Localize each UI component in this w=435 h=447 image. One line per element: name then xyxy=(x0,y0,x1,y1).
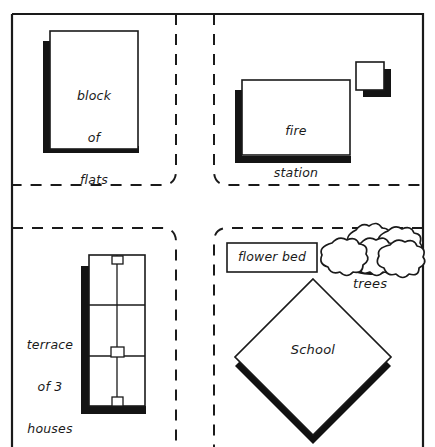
fire-station-annex xyxy=(356,62,391,97)
block-of-flats-outline xyxy=(50,31,138,149)
block-of-flats xyxy=(43,31,139,153)
terrace-door-2 xyxy=(111,347,124,357)
trees xyxy=(321,223,425,277)
terrace-door-3 xyxy=(112,397,123,406)
school xyxy=(235,279,391,444)
map-canvas: block of flats fire station terrace of 3… xyxy=(0,0,435,447)
flower-bed xyxy=(227,243,317,272)
tree-canopy-4 xyxy=(321,238,368,275)
map-drawing xyxy=(0,0,435,447)
fire-station-annex-outline xyxy=(356,62,384,90)
fire-station-outline xyxy=(242,80,350,155)
school-outline xyxy=(235,279,391,435)
fire-station xyxy=(235,80,351,163)
terrace-of-3-houses xyxy=(81,255,146,414)
flower-bed-outline xyxy=(227,243,317,272)
terrace-door-1 xyxy=(112,256,123,264)
